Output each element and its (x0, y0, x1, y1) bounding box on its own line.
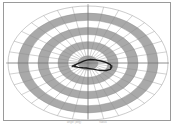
caption-row: angle (deg) radius (3, 121, 171, 130)
caption-left: angle (deg) (67, 121, 81, 125)
data-marker-4 (110, 66, 112, 68)
screenshot-root: angle (deg) radius (0, 0, 176, 130)
data-marker-2 (74, 64, 76, 66)
caption-right: radius (99, 121, 107, 125)
data-marker-1 (73, 65, 75, 67)
polar-plot (0, 0, 176, 130)
